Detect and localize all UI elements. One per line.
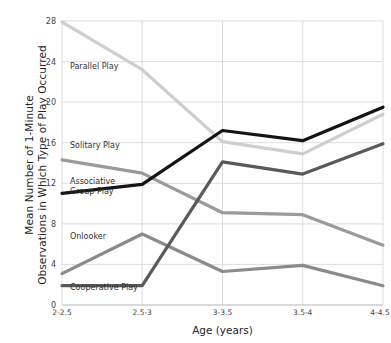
x-tick-3: 3.5-4 — [293, 308, 312, 317]
series-label-solitary-play: Solitary Play — [70, 141, 120, 151]
series-label-parallel-play: Parallel Play — [70, 62, 118, 72]
plot-area — [0, 0, 391, 343]
x-tick-1: 2.5-3 — [132, 308, 151, 317]
x-axis-label: Age (years) — [62, 324, 383, 336]
series-label-onlooker: Onlooker — [70, 232, 106, 242]
series-label-cooperative-play: Cooperative Play — [70, 283, 138, 293]
x-tick-4: 4-4.5 — [370, 308, 389, 317]
series-label-associative-group-play: Associative Group Play — [70, 177, 115, 197]
x-tick-2: 3-3.5 — [213, 308, 232, 317]
line-chart-figure: Mean Number of 1-Minute Observations in … — [0, 0, 391, 343]
x-tick-0: 2-2.5 — [52, 308, 71, 317]
